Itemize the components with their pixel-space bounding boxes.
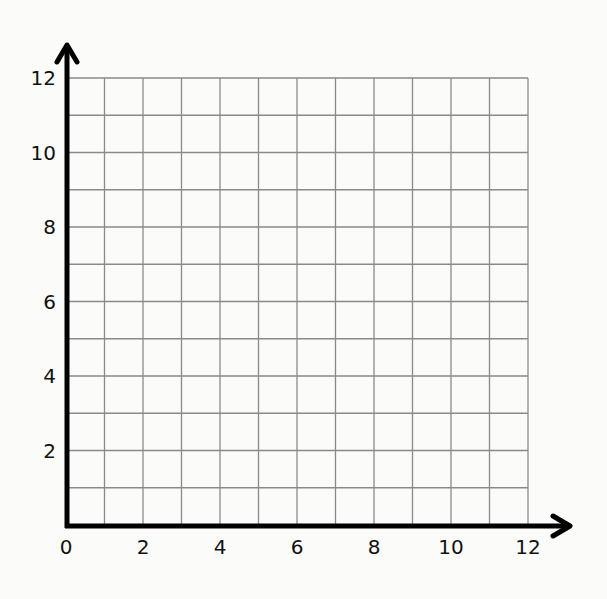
y-tick-label: 8	[43, 215, 56, 239]
y-tick-label: 4	[43, 364, 56, 388]
x-tick-label: 6	[291, 535, 304, 559]
x-tick-label: 4	[214, 535, 227, 559]
y-tick-labels: 24681012	[31, 66, 56, 463]
x-tick-label: 10	[438, 535, 463, 559]
x-tick-label: 12	[515, 535, 540, 559]
axes	[57, 45, 570, 536]
x-tick-label: 8	[368, 535, 381, 559]
grid-lines	[66, 78, 528, 525]
x-tick-label: 2	[137, 535, 150, 559]
y-tick-label: 12	[31, 66, 56, 90]
x-tick-label: 0	[60, 535, 73, 559]
y-tick-label: 6	[43, 290, 56, 314]
coordinate-grid-chart: 024681012 24681012	[0, 0, 607, 599]
y-tick-label: 2	[43, 439, 56, 463]
x-tick-labels: 024681012	[60, 535, 541, 559]
y-tick-label: 10	[31, 141, 56, 165]
